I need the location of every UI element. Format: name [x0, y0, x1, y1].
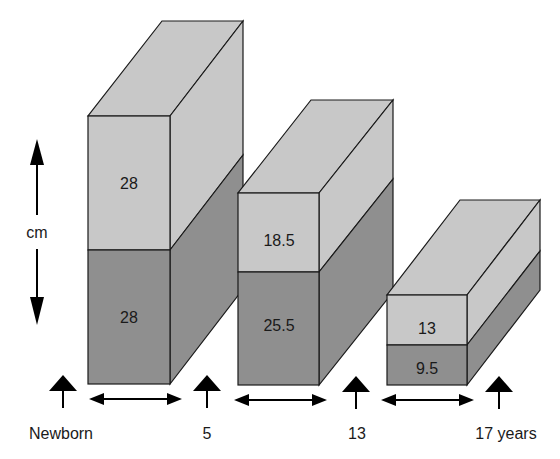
- upper-value: 28: [120, 175, 138, 192]
- block-age-5: 18.5 25.5: [238, 100, 393, 385]
- interval-arrow-1: [89, 393, 182, 405]
- arrow-up-icon: [49, 375, 77, 391]
- unit-label: cm: [26, 224, 47, 241]
- interval-arrow-2: [234, 394, 327, 406]
- arrow-up-icon: [342, 376, 370, 392]
- age-label: 5: [203, 425, 212, 442]
- arrow-up-icon: [485, 376, 513, 392]
- block-newborn: 28 28: [88, 21, 243, 384]
- upper-value: 13: [418, 320, 436, 337]
- age-marker-17: 17 years: [475, 376, 536, 442]
- arrow-down-icon: [30, 297, 44, 325]
- upper-value: 18.5: [263, 232, 294, 249]
- age-label: 17 years: [475, 425, 536, 442]
- arrow-up-icon: [30, 139, 44, 165]
- age-label: 13: [348, 425, 366, 442]
- cm-axis: cm: [26, 139, 47, 325]
- arrow-up-icon: [193, 375, 221, 391]
- interval-arrow-3: [381, 394, 474, 406]
- lower-value: 28: [120, 309, 138, 326]
- growth-diagram: 28 28 18.5 25.5 13 9.5 cm: [0, 0, 560, 459]
- age-marker-5: 5: [193, 375, 221, 442]
- age-marker-newborn: Newborn: [29, 375, 93, 442]
- age-marker-13: 13: [342, 376, 370, 442]
- lower-value: 9.5: [416, 360, 438, 377]
- lower-value: 25.5: [263, 317, 294, 334]
- block-age-13: 13 9.5: [387, 200, 540, 385]
- age-label: Newborn: [29, 425, 93, 442]
